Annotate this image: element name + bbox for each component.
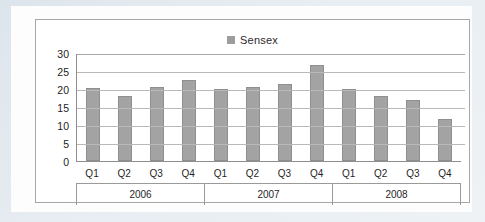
- y-tick-label: 5: [63, 139, 69, 150]
- y-tick-label: 10: [57, 121, 69, 132]
- bar[interactable]: [150, 87, 163, 161]
- bar[interactable]: [310, 65, 323, 161]
- group-axis-labels: 200620072008: [76, 183, 461, 205]
- bar[interactable]: [278, 84, 291, 161]
- bar[interactable]: [246, 87, 259, 161]
- bar[interactable]: [438, 119, 451, 161]
- legend-label-sensex: Sensex: [240, 34, 278, 46]
- bar[interactable]: [118, 96, 131, 161]
- y-tick-label: 25: [57, 67, 69, 78]
- bar[interactable]: [86, 88, 99, 161]
- group-label-2006: 2006: [76, 183, 205, 205]
- gridline: [77, 144, 465, 145]
- category-label: Q2: [365, 163, 397, 183]
- category-label: Q3: [397, 163, 429, 183]
- category-label: Q1: [204, 163, 236, 183]
- chart-legend: Sensex: [36, 34, 469, 46]
- category-label: Q4: [429, 163, 461, 183]
- bar[interactable]: [214, 89, 227, 161]
- plot-wrapper: 302520151050 Q1Q2Q3Q4Q1Q2Q3Q4Q1Q2Q3Q4 20…: [46, 54, 461, 194]
- y-tick-label: 20: [57, 85, 69, 96]
- gridline: [77, 90, 465, 91]
- y-tick-label: 0: [63, 157, 69, 168]
- category-label: Q1: [333, 163, 365, 183]
- category-label: Q3: [268, 163, 300, 183]
- category-label: Q1: [76, 163, 108, 183]
- bar[interactable]: [182, 80, 195, 161]
- scan-background: Sensex 302520151050 Q1Q2Q3Q4Q1Q2Q3Q4Q1Q2…: [0, 0, 485, 222]
- y-tick-label: 15: [57, 103, 69, 114]
- category-label: Q2: [108, 163, 140, 183]
- document-page: Sensex 302520151050 Q1Q2Q3Q4Q1Q2Q3Q4Q1Q2…: [11, 6, 472, 212]
- gridline: [77, 54, 465, 55]
- plot-area: [76, 54, 461, 162]
- bar[interactable]: [342, 89, 355, 161]
- chart-container: Sensex 302520151050 Q1Q2Q3Q4Q1Q2Q3Q4Q1Q2…: [35, 19, 470, 203]
- category-label: Q2: [236, 163, 268, 183]
- legend-swatch-icon: [227, 36, 235, 44]
- category-axis-labels: Q1Q2Q3Q4Q1Q2Q3Q4Q1Q2Q3Q4: [76, 163, 461, 184]
- bar[interactable]: [374, 96, 387, 161]
- y-axis: 302520151050: [46, 54, 72, 162]
- gridline: [77, 126, 465, 127]
- group-label-2008: 2008: [333, 183, 461, 205]
- category-label: Q3: [140, 163, 172, 183]
- gridline: [77, 72, 465, 73]
- category-label: Q4: [301, 163, 333, 183]
- gridline: [77, 108, 465, 109]
- group-label-2007: 2007: [205, 183, 333, 205]
- y-tick-label: 30: [57, 49, 69, 60]
- category-label: Q4: [172, 163, 204, 183]
